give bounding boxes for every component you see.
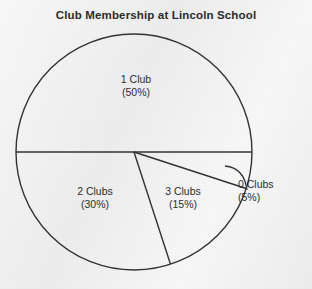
slice-label-two-clubs-name: 2 Clubs — [48, 185, 142, 198]
slice-label-three-clubs-name: 3 Clubs — [140, 185, 226, 198]
slice-label-zero-clubs-percent: (5%) — [238, 191, 308, 204]
slice-label-zero-clubs: 0 Clubs (5%) — [238, 178, 308, 204]
slice-label-two-clubs-percent: (30%) — [48, 198, 142, 211]
slice-label-two-clubs: 2 Clubs (30%) — [48, 185, 142, 211]
slice-label-zero-clubs-name: 0 Clubs — [238, 178, 308, 191]
slice-label-one-club-name: 1 Club — [86, 73, 186, 86]
slice-label-three-clubs-percent: (15%) — [140, 198, 226, 211]
pie-chart-graphic — [0, 0, 312, 289]
slice-label-one-club: 1 Club (50%) — [86, 73, 186, 99]
slice-label-three-clubs: 3 Clubs (15%) — [140, 185, 226, 211]
slice-divider-three-zero-clubs — [134, 152, 246, 189]
slice-label-one-club-percent: (50%) — [86, 86, 186, 99]
chart-page: Club Membership at Lincoln School 1 Club… — [0, 0, 312, 289]
